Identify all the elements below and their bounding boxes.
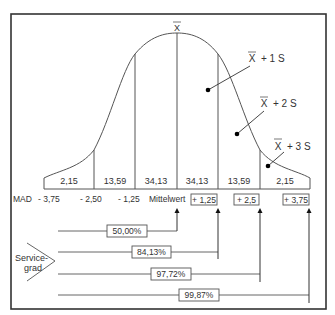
marker-plus-1s xyxy=(206,88,211,93)
level-value-84: 84,13% xyxy=(137,247,166,257)
x-bar-plus-2s-x: X xyxy=(261,98,268,109)
segment-pct-3: 34,13 xyxy=(145,176,168,186)
x-bar-plus-1s-x: X xyxy=(249,53,256,64)
arrow-up-icon xyxy=(216,208,221,213)
mean-top-label: X xyxy=(174,23,180,33)
level-value-50: 50,00% xyxy=(113,226,142,236)
mad-value-plus-1: + 1,25 xyxy=(192,195,216,205)
arrow-up-icon xyxy=(175,208,180,213)
x-bar-plus-3s-label: + 3 S xyxy=(287,141,311,152)
arrow-up-icon xyxy=(307,208,312,213)
marker-plus-3s xyxy=(266,164,271,169)
pointer-plus-1s xyxy=(208,66,250,90)
x-bar-plus-1s-label: + 1 S xyxy=(261,53,285,64)
arrow-up-icon xyxy=(258,208,263,213)
pointer-plus-2s xyxy=(237,111,264,134)
x-bar-plus-2s-label: + 2 S xyxy=(273,98,297,109)
service-level-label-line1: Service- xyxy=(15,253,48,263)
segment-pct-5: 13,59 xyxy=(228,176,251,186)
level-value-99: 99,87% xyxy=(185,290,214,300)
marker-plus-2s xyxy=(235,132,240,137)
segment-pct-2: 13,59 xyxy=(104,176,127,186)
level-value-97: 97,72% xyxy=(157,269,186,279)
mad-prefix: MAD xyxy=(13,194,32,204)
mad-value-minus-3: - 3,75 xyxy=(38,194,60,204)
normal-distribution-diagram: X X + 1 S X + 2 S X + 3 S 2,15 13,59 34,… xyxy=(0,0,335,315)
mad-center-label: Mittelwert xyxy=(149,194,186,204)
mad-value-minus-1: - 1,25 xyxy=(118,194,140,204)
service-level-label-line2: grad xyxy=(24,263,42,273)
segment-pct-1: 2,15 xyxy=(60,176,78,186)
segment-pct-4: 34,13 xyxy=(186,176,209,186)
mad-value-minus-2: - 2,50 xyxy=(80,194,102,204)
segment-pct-6: 2,15 xyxy=(276,176,294,186)
mad-value-plus-3: + 3,75 xyxy=(284,195,308,205)
mad-value-plus-2: + 2,5 xyxy=(237,195,256,205)
x-bar-plus-3s-x: X xyxy=(275,141,282,152)
